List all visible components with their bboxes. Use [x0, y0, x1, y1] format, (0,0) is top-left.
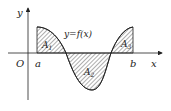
y-axis-label: y: [16, 7, 23, 18]
curve-label: y=f(x): [63, 29, 93, 39]
area-under-curve-diagram: y x O a b y=f(x) A1 A2 A3: [0, 0, 171, 111]
upper-bound-label: b: [130, 58, 136, 69]
origin-label: O: [16, 58, 24, 69]
lower-bound-label: a: [35, 58, 41, 69]
x-axis-label: x: [151, 58, 157, 69]
